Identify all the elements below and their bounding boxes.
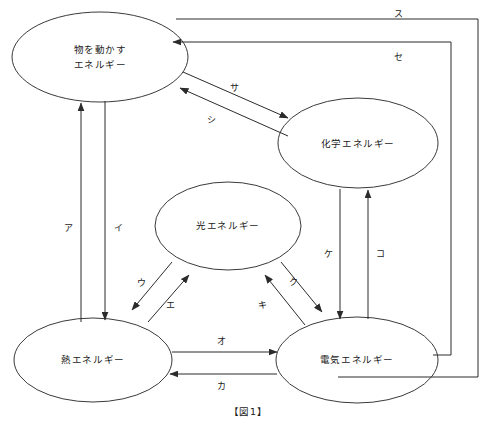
- edge-sa-arrow: [183, 72, 288, 118]
- edge-label-ka: カ: [217, 381, 226, 391]
- edge-ku-arrow: [281, 262, 322, 312]
- node-light: 光エネルギー: [155, 182, 301, 270]
- diagram-canvas: 物を動かす エネルギー 化学エネルギー 光エネルギー 熱エネルギー 電気エネルギ…: [0, 0, 497, 427]
- node-heat: 熱エネルギー: [14, 318, 172, 402]
- edge-label-e: エ: [166, 300, 175, 310]
- edge-a: ア: [64, 103, 82, 322]
- node-electric: 電気エネルギー: [276, 317, 438, 403]
- node-label-motion-line2: エネルギー: [74, 59, 127, 70]
- edge-label-ki: キ: [258, 300, 267, 310]
- edge-ko: コ: [368, 190, 385, 319]
- edge-shi: シ: [180, 88, 288, 136]
- edge-ka: カ: [170, 374, 277, 391]
- edge-label-ko: コ: [376, 249, 385, 259]
- node-label-electric: 電気エネルギー: [320, 354, 394, 365]
- figure-caption: 【図1】: [229, 406, 267, 417]
- edge-ke: ケ: [324, 189, 341, 319]
- edge-e: エ: [148, 275, 189, 322]
- edge-label-a: ア: [64, 223, 73, 233]
- edge-label-sa: サ: [230, 83, 239, 93]
- edge-ki-arrow: [265, 275, 305, 325]
- edge-label-o: オ: [217, 336, 226, 346]
- node-chemical: 化学エネルギー: [278, 98, 438, 188]
- energy-conversion-diagram: 物を動かす エネルギー 化学エネルギー 光エネルギー 熱エネルギー 電気エネルギ…: [0, 0, 497, 427]
- edge-shi-arrow: [180, 88, 288, 136]
- edge-i: イ: [105, 101, 123, 320]
- edge-e-arrow: [148, 275, 189, 322]
- node-label-chemical: 化学エネルギー: [321, 138, 395, 149]
- edge-label-i: イ: [114, 223, 123, 233]
- node-motion: 物を動かす エネルギー: [12, 12, 188, 102]
- edge-label-su: ス: [394, 9, 403, 19]
- edge-label-ke: ケ: [324, 249, 333, 259]
- edge-sa: サ: [183, 72, 288, 118]
- edge-ku: ク: [281, 262, 322, 312]
- edge-label-ku: ク: [289, 277, 298, 287]
- edge-o: オ: [172, 336, 277, 353]
- node-label-motion-line1: 物を動かす: [74, 44, 127, 55]
- node-label-light: 光エネルギー: [196, 220, 260, 231]
- node-label-heat: 熱エネルギー: [61, 354, 125, 365]
- ellipse-motion-energy: [12, 12, 188, 102]
- edge-label-shi: シ: [207, 115, 216, 125]
- edge-label-se: セ: [394, 52, 403, 62]
- edge-label-u: ウ: [137, 278, 146, 288]
